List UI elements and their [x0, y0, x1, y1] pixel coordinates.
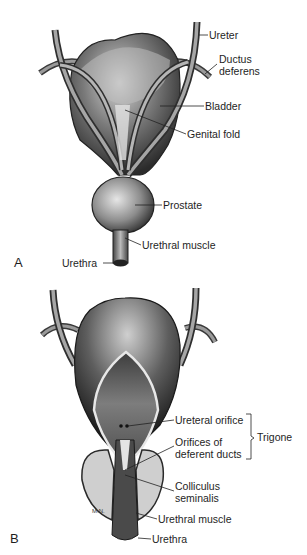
label-bladder: Bladder	[205, 100, 241, 112]
label-ductus-deferens-line1: Ductus	[219, 53, 252, 65]
label-colliculus-line2: seminalis	[175, 492, 219, 504]
label-genital-fold: Genital fold	[187, 128, 240, 140]
panel-a-drawing	[40, 22, 217, 267]
label-ureteral-orifice: Ureteral orifice	[175, 414, 243, 426]
label-colliculus-line1: Colliculus	[175, 480, 220, 492]
label-urethra-a: Urethra	[62, 257, 97, 269]
label-urethral-muscle-b: Urethral muscle	[158, 513, 232, 525]
label-orifices-line1: Orifices of	[175, 436, 222, 448]
label-orifices-line2: deferent ducts	[175, 448, 242, 460]
anatomy-illustration	[0, 0, 307, 555]
label-ductus-deferens-line2: deferens	[219, 65, 260, 77]
panel-letter-a: A	[14, 255, 23, 270]
label-urethral-muscle-a: Urethral muscle	[142, 239, 216, 251]
label-prostate: Prostate	[163, 199, 202, 211]
label-trigone: Trigone	[257, 431, 292, 443]
label-ureter: Ureter	[209, 29, 238, 41]
anatomy-figure: Ureter Ductus deferens Bladder Genital f…	[0, 0, 307, 555]
label-urethra-b: Urethra	[152, 533, 187, 545]
panel-letter-b: B	[10, 531, 19, 546]
artist-signature: M.N.	[92, 508, 102, 514]
